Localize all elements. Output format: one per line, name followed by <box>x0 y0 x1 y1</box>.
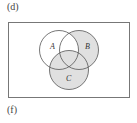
set-label-a: A <box>49 42 55 51</box>
set-label-b: B <box>85 42 90 51</box>
venn-diagram: A B C <box>0 0 137 123</box>
set-label-c: C <box>66 74 72 83</box>
panel-label-f: (f) <box>7 104 17 115</box>
